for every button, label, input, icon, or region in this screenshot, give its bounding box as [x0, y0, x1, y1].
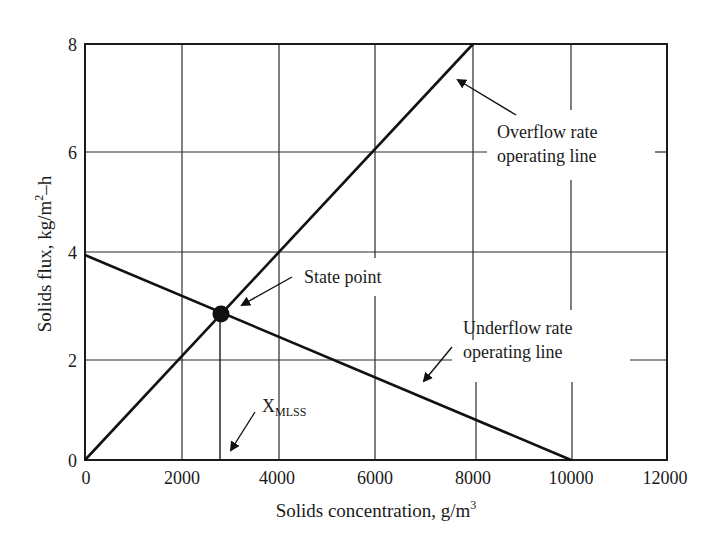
underflow-label-line2: operating line — [463, 342, 562, 362]
x-axis-title: Solids concentration, g/m3 — [276, 498, 477, 521]
svg-text:4: 4 — [68, 243, 77, 263]
state-point-marker — [213, 306, 230, 323]
svg-text:0: 0 — [82, 468, 91, 488]
svg-text:10000: 10000 — [549, 468, 594, 488]
x-tick-labels: 0 2000 4000 6000 8000 10000 12000 — [82, 468, 688, 488]
svg-text:8: 8 — [68, 35, 77, 55]
state-point-arrow-icon — [242, 277, 292, 305]
underflow-arrow-icon — [424, 347, 452, 381]
grid-horizontal — [85, 152, 667, 360]
y-tick-labels: 8 6 4 2 0 — [68, 35, 77, 471]
solids-flux-chart: Overflow rate operating line State point… — [0, 0, 717, 549]
svg-text:12000: 12000 — [643, 468, 688, 488]
svg-text:2000: 2000 — [164, 468, 200, 488]
underflow-label-line1: Underflow rate — [463, 318, 572, 338]
svg-text:2: 2 — [68, 351, 77, 371]
xmlss-label: XMLSS — [262, 396, 306, 419]
xmlss-arrow-icon — [231, 412, 255, 450]
y-axis-title: Solids flux, kg/m2–h — [32, 175, 55, 332]
overflow-arrow-icon — [458, 80, 516, 115]
svg-text:6000: 6000 — [357, 468, 393, 488]
overflow-label-line2: operating line — [497, 146, 596, 166]
state-point-label: State point — [304, 267, 382, 287]
svg-text:6: 6 — [68, 143, 77, 163]
svg-text:8000: 8000 — [455, 468, 491, 488]
overflow-label-line1: Overflow rate — [497, 122, 597, 142]
svg-text:4000: 4000 — [259, 468, 295, 488]
svg-text:0: 0 — [68, 451, 77, 471]
